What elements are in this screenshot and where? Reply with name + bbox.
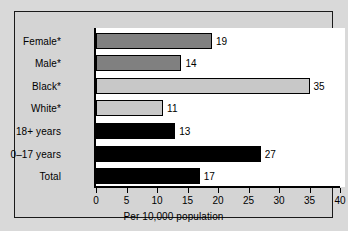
x-axis-tick-label: 5 [124,195,130,206]
bar-row: Female*19 [15,29,332,52]
bar-value-label: 14 [185,58,196,69]
x-axis-tick [310,188,311,193]
bar [96,168,200,184]
bar [96,146,261,162]
x-axis-tick-label: 25 [243,195,254,206]
bar-category-label: Female* [23,35,61,46]
bar [96,33,212,49]
x-axis-tick-label: 20 [212,195,223,206]
bar-row: Black*35 [15,74,332,97]
x-axis-tick-label: 40 [334,195,345,206]
bar [96,123,175,139]
bar-value-label: 11 [167,103,177,114]
bar-value-label: 35 [314,80,325,91]
bar-value-label: 13 [179,125,190,136]
x-axis-tick-label: 0 [93,195,99,206]
chart-figure-frame: Female*19Male*14Black*35White*1118+ year… [14,11,333,218]
bar-value-label: 17 [204,171,215,182]
bar-row: 18+ years13 [15,119,332,142]
x-axis-tick [157,188,158,193]
x-axis-tick [340,188,341,193]
bar-row: 0–17 years27 [15,142,332,165]
bar-row: White*11 [15,97,332,120]
x-axis-title: Per 10,000 population [15,211,332,222]
bar-category-label: Total [39,171,61,182]
bar-category-label: Black* [32,80,61,91]
bar-value-label: 27 [265,148,276,159]
x-axis-tick [279,188,280,193]
x-axis-tick-label: 15 [182,195,193,206]
x-axis-tick [96,188,97,193]
x-axis-tick-label: 10 [151,195,162,206]
x-axis-tick [188,188,189,193]
bar [96,100,163,116]
bar [96,78,310,94]
bar-category-label: Male* [35,58,61,69]
x-axis-tick [218,188,219,193]
x-axis-tick-label: 30 [273,195,284,206]
x-axis-tick-label: 35 [304,195,315,206]
bar-row: Total17 [15,165,332,188]
bar-category-label: 0–17 years [11,148,61,159]
bar-value-label: 19 [216,35,227,46]
bar-category-label: 18+ years [16,125,61,136]
bar-row: Male*14 [15,52,332,75]
x-axis-tick [249,188,250,193]
bar [96,55,181,71]
x-axis-tick [127,188,128,193]
bar-category-label: White* [31,103,61,114]
